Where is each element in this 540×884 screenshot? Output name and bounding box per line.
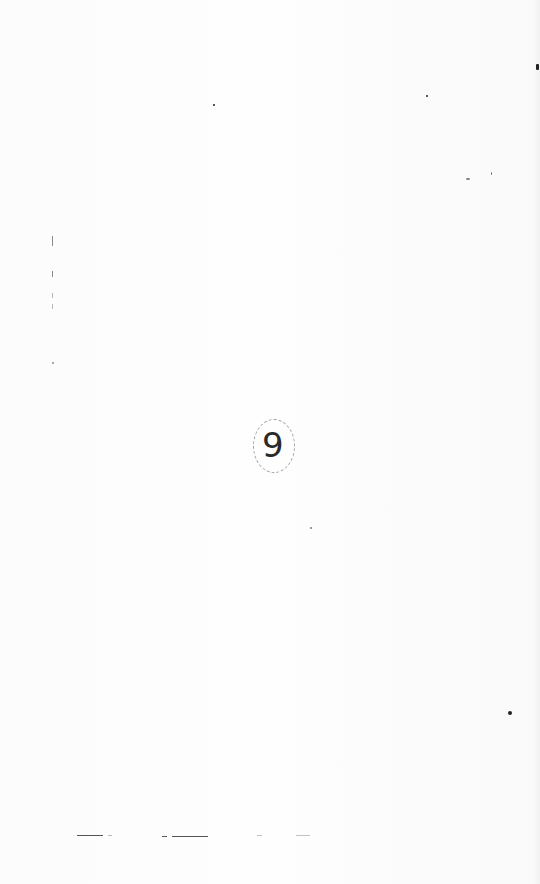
scan-speck <box>310 527 312 529</box>
page-number: 9 <box>262 425 284 465</box>
margin-mark <box>52 304 53 309</box>
margin-mark <box>52 236 53 246</box>
faint-stroke <box>257 835 262 836</box>
margin-mark <box>52 271 53 277</box>
margin-mark <box>52 293 53 298</box>
faint-stroke <box>77 835 103 836</box>
scan-speck <box>491 172 492 175</box>
faint-stroke <box>108 835 112 836</box>
scan-speck <box>466 178 470 180</box>
scan-speck <box>426 95 428 97</box>
scan-speck <box>52 362 54 364</box>
faint-stroke <box>162 836 167 837</box>
scanned-page: 9 <box>0 0 540 884</box>
scan-speck <box>536 64 539 70</box>
faint-stroke <box>172 836 208 837</box>
page-edge-shadow <box>534 0 540 884</box>
circled-page-number: 9 <box>253 419 297 475</box>
faint-stroke <box>296 835 310 836</box>
scan-speck <box>213 104 215 106</box>
scan-speck <box>508 711 512 715</box>
